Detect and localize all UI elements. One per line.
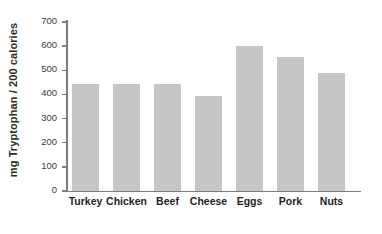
y-axis-title-text: mg Tryptophan / 200 calories (7, 23, 19, 177)
y-tick-label: 200 (41, 136, 57, 147)
y-tick-label: 600 (41, 39, 57, 50)
bar (318, 73, 345, 191)
x-axis-label: Cheese (190, 195, 227, 207)
plot-area (67, 22, 360, 191)
x-axis-label: Eggs (237, 195, 263, 207)
x-axis-label: Nuts (320, 195, 343, 207)
x-axis-label: Pork (279, 195, 302, 207)
y-tick-label: 700 (41, 15, 57, 26)
y-tick-label: 500 (41, 63, 57, 74)
x-axis-label: Turkey (69, 195, 103, 207)
y-tick-label: 100 (41, 160, 57, 171)
y-axis-title: mg Tryptophan / 200 calories (0, 0, 26, 200)
y-tick-label: 300 (41, 112, 57, 123)
x-axis-label: Beef (156, 195, 179, 207)
bar (154, 84, 181, 191)
bar (195, 96, 222, 191)
bar (236, 46, 263, 191)
y-tick-label: 0 (52, 184, 57, 195)
y-tick-label: 400 (41, 87, 57, 98)
bar-chart: mg Tryptophan / 200 calories 01002003004… (0, 0, 382, 234)
bar (72, 84, 99, 191)
bar (277, 57, 304, 191)
bar (113, 84, 140, 191)
x-axis-label: Chicken (106, 195, 147, 207)
